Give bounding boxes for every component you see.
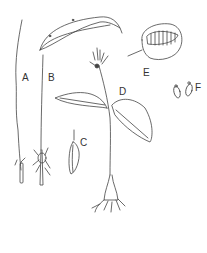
label-f: F: [195, 83, 201, 93]
label-b: B: [48, 73, 55, 83]
panel-e-drawing: [128, 24, 182, 60]
label-e: E: [143, 68, 150, 78]
panel-a-drawing: [15, 20, 25, 183]
panel-c-drawing: [69, 130, 79, 174]
label-a: A: [22, 73, 29, 83]
panel-f-drawing: [173, 82, 194, 99]
panel-d-drawing: [55, 48, 152, 212]
label-d: D: [119, 87, 126, 97]
botanical-figure: A B C D E F: [0, 0, 207, 253]
label-c: C: [80, 138, 87, 148]
plant-illustration: [0, 0, 207, 253]
